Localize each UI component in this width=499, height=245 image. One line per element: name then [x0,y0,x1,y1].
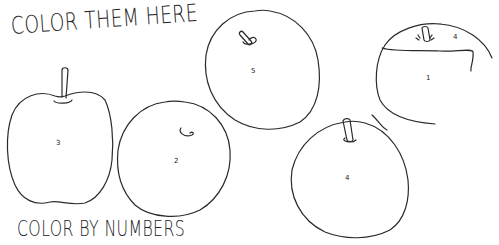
apple-bottom-right-outline [291,119,408,238]
apple-left-number: 3 [56,139,60,147]
apple-top-center-outline [205,10,319,129]
apple-far-right-number: 1 [426,74,430,82]
apple-far-right-top-number: 4 [453,33,457,41]
coloring-page: COLOR THEM HERE COLOR BY NUMBERS 3 2 5 4… [0,0,499,245]
apple-left-outline [7,68,112,204]
apple-top-center-number: 5 [251,67,255,75]
outline-fragment [372,115,387,130]
apple-outlines [0,0,499,245]
apple-center-left-number: 2 [174,157,178,165]
apple-far-right-outline [376,24,492,124]
apple-bottom-right-number: 4 [345,174,349,182]
heading-color-by-numbers: COLOR BY NUMBERS [17,217,185,241]
